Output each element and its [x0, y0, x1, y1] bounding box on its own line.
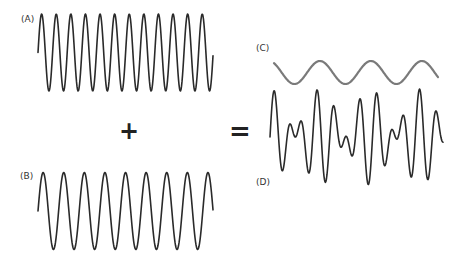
- label-a: (A): [21, 14, 34, 24]
- label-c: (C): [256, 43, 269, 53]
- label-d: (D): [256, 177, 270, 187]
- equals-sign: =: [229, 118, 251, 144]
- plus-sign: +: [119, 119, 139, 143]
- wave-c-beat-envelope: [274, 61, 438, 84]
- wave-b-lower-frequency: [38, 173, 213, 250]
- wave-d-superposition: [270, 89, 443, 184]
- wave-a-high-frequency: [38, 14, 213, 91]
- label-b: (B): [20, 171, 33, 181]
